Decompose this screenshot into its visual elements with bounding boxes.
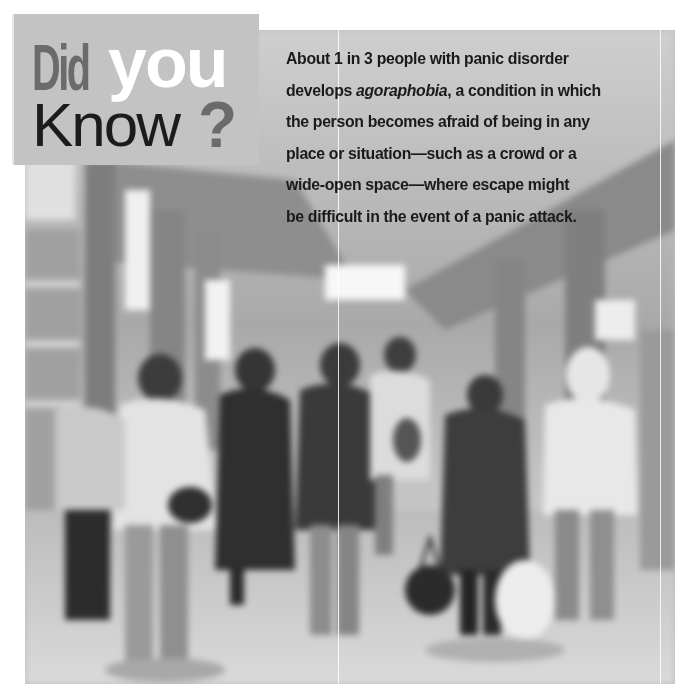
title-you: you xyxy=(108,28,226,98)
fact-line: develops agoraphobia, a condition in whi… xyxy=(286,75,658,107)
fact-text-segment: the person becomes afraid of being in an… xyxy=(286,112,590,131)
fact-line: be difficult in the event of a panic att… xyxy=(286,201,658,233)
fact-text-segment: develops xyxy=(286,81,356,100)
fact-line: place or situation—such as a crowd or a xyxy=(286,138,658,170)
fact-line: wide-open space—where escape might xyxy=(286,169,658,201)
fact-text-segment: be difficult in the event of a panic att… xyxy=(286,207,577,226)
photo-edge-line xyxy=(660,30,661,684)
title-know: Know xyxy=(32,94,179,156)
fact-term-agoraphobia: agoraphobia xyxy=(356,81,447,100)
fact-text: About 1 in 3 people with panic disorder … xyxy=(286,43,658,232)
fact-text-segment: place or situation—such as a crowd or a xyxy=(286,144,576,163)
fact-text-segment: About 1 in 3 people with panic disorder xyxy=(286,49,568,68)
fact-text-segment: , a condition in which xyxy=(447,81,601,100)
question-mark-icon: ? xyxy=(198,94,237,156)
did-you-know-callout: Did you Know ? xyxy=(12,14,259,165)
fact-line: the person becomes afraid of being in an… xyxy=(286,106,658,138)
fact-text-segment: wide-open space—where escape might xyxy=(286,175,569,194)
fact-line: About 1 in 3 people with panic disorder xyxy=(286,43,658,75)
